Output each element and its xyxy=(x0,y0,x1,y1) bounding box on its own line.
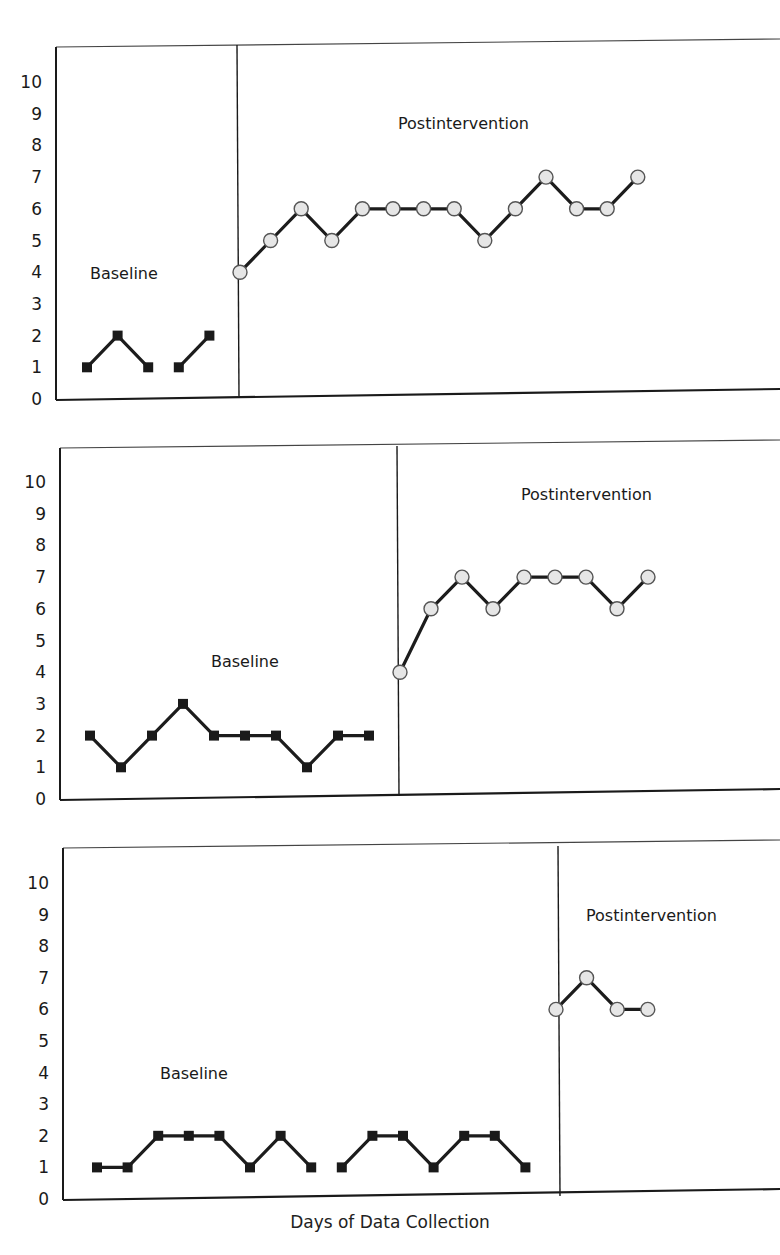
postintervention-circle-marker xyxy=(424,602,438,616)
baseline-square-marker xyxy=(174,362,184,372)
data-line xyxy=(400,577,648,672)
y-tick-label: 0 xyxy=(35,789,46,809)
phase-label: Baseline xyxy=(160,1064,228,1083)
baseline-square-marker xyxy=(240,731,250,741)
y-tick-label: 6 xyxy=(35,599,46,619)
panel-2: 012345678910BaselinePostintervention xyxy=(24,440,780,809)
panel-3: 012345678910BaselinePostintervention xyxy=(27,840,780,1209)
y-tick-label: 2 xyxy=(38,1126,49,1146)
postintervention-circle-marker xyxy=(610,1002,624,1016)
baseline-square-marker xyxy=(306,1162,316,1172)
y-tick-label: 1 xyxy=(38,1157,49,1177)
y-tick-label: 1 xyxy=(31,357,42,377)
baseline-square-marker xyxy=(459,1131,469,1141)
y-tick-label: 3 xyxy=(38,1094,49,1114)
y-tick-label: 2 xyxy=(31,326,42,346)
postintervention-circle-marker xyxy=(631,170,645,184)
y-tick-label: 9 xyxy=(35,504,46,524)
y-tick-label: 3 xyxy=(35,694,46,714)
baseline-square-marker xyxy=(113,331,123,341)
baseline-square-marker xyxy=(82,362,92,372)
postintervention-circle-marker xyxy=(517,570,531,584)
y-tick-label: 2 xyxy=(35,726,46,746)
phase-label: Postintervention xyxy=(521,485,652,504)
y-tick-label: 8 xyxy=(35,535,46,555)
multiple-baseline-chart: 012345678910BaselinePostintervention0123… xyxy=(0,0,780,1255)
phase-change-line xyxy=(558,846,560,1196)
y-tick-label: 8 xyxy=(31,135,42,155)
postintervention-circle-marker xyxy=(417,202,431,216)
baseline-square-marker xyxy=(143,362,153,372)
y-tick-label: 1 xyxy=(35,757,46,777)
y-tick-label: 9 xyxy=(31,104,42,124)
postintervention-circle-marker xyxy=(570,202,584,216)
baseline-square-marker xyxy=(398,1131,408,1141)
data-line xyxy=(556,978,648,1010)
postintervention-circle-marker xyxy=(508,202,522,216)
postintervention-circle-marker xyxy=(478,234,492,248)
postintervention-circle-marker xyxy=(386,202,400,216)
panel-top-border xyxy=(60,440,780,448)
baseline-square-marker xyxy=(271,731,281,741)
y-tick-label: 5 xyxy=(35,631,46,651)
postintervention-circle-marker xyxy=(233,265,247,279)
postintervention-circle-marker xyxy=(610,602,624,616)
baseline-square-marker xyxy=(147,731,157,741)
baseline-square-marker xyxy=(214,1131,224,1141)
y-tick-label: 3 xyxy=(31,294,42,314)
baseline-square-marker xyxy=(178,699,188,709)
postintervention-circle-marker xyxy=(641,1002,655,1016)
data-line xyxy=(90,704,369,767)
x-axis xyxy=(63,1189,780,1200)
baseline-square-marker xyxy=(490,1131,500,1141)
data-line xyxy=(240,177,638,272)
y-tick-label: 6 xyxy=(31,199,42,219)
baseline-square-marker xyxy=(245,1162,255,1172)
phase-change-line xyxy=(397,446,399,796)
baseline-square-marker xyxy=(276,1131,286,1141)
baseline-square-marker xyxy=(116,762,126,772)
postintervention-circle-marker xyxy=(600,202,614,216)
phase-label: Baseline xyxy=(90,264,158,283)
baseline-square-marker xyxy=(123,1162,133,1172)
y-tick-label: 4 xyxy=(35,662,46,682)
baseline-square-marker xyxy=(333,731,343,741)
y-tick-label: 4 xyxy=(31,262,42,282)
baseline-square-marker xyxy=(364,731,374,741)
postintervention-circle-marker xyxy=(579,570,593,584)
postintervention-circle-marker xyxy=(447,202,461,216)
postintervention-circle-marker xyxy=(325,234,339,248)
phase-label: Baseline xyxy=(211,652,279,671)
baseline-square-marker xyxy=(429,1162,439,1172)
postintervention-circle-marker xyxy=(548,570,562,584)
x-axis-label: Days of Data Collection xyxy=(0,1212,780,1232)
postintervention-circle-marker xyxy=(549,1002,563,1016)
baseline-square-marker xyxy=(337,1162,347,1172)
baseline-square-marker xyxy=(184,1131,194,1141)
x-axis xyxy=(56,389,780,400)
y-tick-label: 5 xyxy=(31,231,42,251)
phase-label: Postintervention xyxy=(586,906,717,925)
x-axis xyxy=(60,789,780,800)
y-tick-label: 7 xyxy=(35,567,46,587)
y-tick-label: 10 xyxy=(27,873,49,893)
postintervention-circle-marker xyxy=(580,971,594,985)
baseline-square-marker xyxy=(204,331,214,341)
phase-label: Postintervention xyxy=(398,114,529,133)
panel-top-border xyxy=(63,840,780,848)
postintervention-circle-marker xyxy=(264,234,278,248)
baseline-square-marker xyxy=(520,1162,530,1172)
y-tick-label: 9 xyxy=(38,905,49,925)
postintervention-circle-marker xyxy=(294,202,308,216)
baseline-square-marker xyxy=(85,731,95,741)
y-tick-label: 6 xyxy=(38,999,49,1019)
y-tick-label: 4 xyxy=(38,1063,49,1083)
postintervention-circle-marker xyxy=(355,202,369,216)
baseline-square-marker xyxy=(302,762,312,772)
postintervention-circle-marker xyxy=(393,665,407,679)
postintervention-circle-marker xyxy=(641,570,655,584)
y-tick-label: 7 xyxy=(38,968,49,988)
baseline-square-marker xyxy=(92,1162,102,1172)
baseline-square-marker xyxy=(209,731,219,741)
baseline-square-marker xyxy=(153,1131,163,1141)
